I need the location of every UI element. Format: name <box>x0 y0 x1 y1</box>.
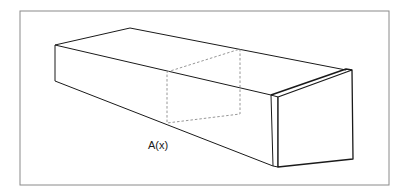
diagram-canvas: A(x) <box>0 0 409 195</box>
cross-section-label: A(x) <box>148 139 168 151</box>
